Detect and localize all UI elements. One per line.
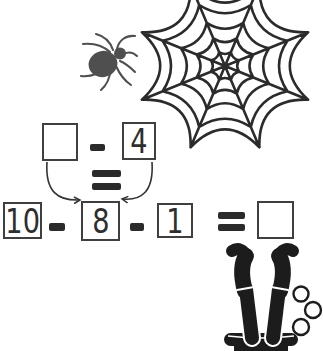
arrow-right [122,162,152,199]
curved-arrows-icon [40,158,160,206]
subtrahend-value: 4 [130,124,147,158]
arrow-left [47,162,80,200]
subtrahend-box: 4 [122,122,156,160]
minuend-box[interactable] [42,123,78,161]
term1-box: 10 [3,202,42,239]
term3-box: 1 [157,203,193,238]
cauldron-icon [224,333,298,351]
worksheet-page: 4 10 8 1 [0,0,323,351]
minus-sign-bottom-1 [49,223,65,231]
witch-legs-icon [232,249,293,338]
answer-box[interactable] [257,201,294,239]
term3-value: 1 [166,204,183,238]
witch-legs-in-cauldron-icon [215,235,323,351]
spider-web-icon [132,0,323,152]
minus-sign-top [90,144,105,151]
bubbles-icon [293,287,321,336]
term2-box: 8 [81,201,120,241]
term2-value: 8 [92,204,109,238]
term1-value: 10 [5,204,40,238]
minus-sign-bottom-2 [130,223,144,231]
